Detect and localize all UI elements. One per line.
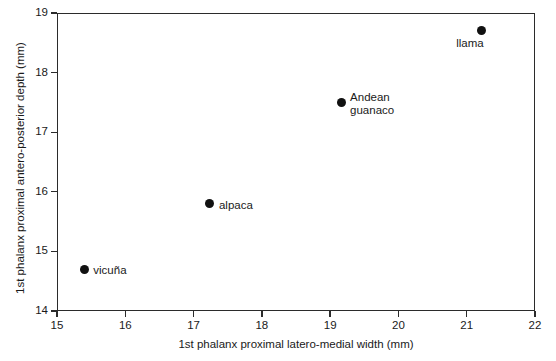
scatter-plot-figure: 1516171819202122 141516171819 vicuñaalpa… xyxy=(0,0,556,361)
data-point-marker[interactable] xyxy=(80,265,89,274)
x-tick-mark xyxy=(193,311,194,317)
plot-frame xyxy=(57,13,535,311)
x-tick-mark xyxy=(398,311,399,317)
y-tick-label: 19 xyxy=(20,6,48,19)
x-tick-label: 16 xyxy=(110,319,140,332)
data-point-label: llama xyxy=(456,37,483,50)
y-tick-mark xyxy=(51,132,57,133)
x-axis-title: 1st phalanx proximal latero-medial width… xyxy=(57,338,535,350)
x-tick-label: 15 xyxy=(42,319,72,332)
y-tick-mark xyxy=(51,251,57,252)
x-tick-label: 18 xyxy=(247,319,277,332)
x-tick-label: 17 xyxy=(179,319,209,332)
y-tick-mark xyxy=(51,72,57,73)
x-tick-mark xyxy=(261,311,262,317)
data-point-marker[interactable] xyxy=(337,98,346,107)
x-tick-mark xyxy=(329,311,330,317)
data-point-label: vicuña xyxy=(93,264,126,277)
data-point-label: Andean guanaco xyxy=(350,91,394,116)
x-tick-label: 20 xyxy=(383,319,413,332)
x-tick-label: 19 xyxy=(315,319,345,332)
x-tick-mark xyxy=(466,311,467,317)
x-tick-label: 21 xyxy=(452,319,482,332)
y-axis-title: 1st phalanx proximal antero-posterior de… xyxy=(14,19,26,317)
x-tick-mark xyxy=(125,311,126,317)
y-tick-mark xyxy=(51,310,57,311)
x-tick-mark xyxy=(56,311,57,317)
x-tick-label: 22 xyxy=(520,319,550,332)
x-tick-mark xyxy=(534,311,535,317)
data-point-label: alpaca xyxy=(219,198,253,211)
y-tick-mark xyxy=(51,191,57,192)
y-tick-mark xyxy=(51,12,57,13)
